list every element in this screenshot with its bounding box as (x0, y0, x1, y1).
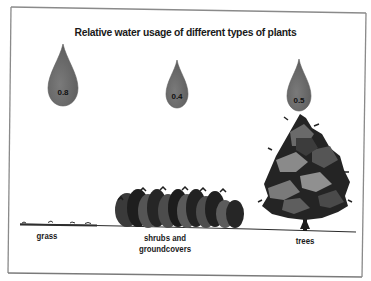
plant-label-trees: trees (291, 236, 319, 247)
figure-title: Relative water usage of different types … (19, 26, 353, 38)
water-usage-value-trees: 0.5 (287, 96, 311, 105)
tree-illustration (258, 114, 352, 231)
water-usage-value-shrubs: 0.4 (165, 92, 189, 101)
plant-label-shrubs-line2: groundcovers (133, 244, 197, 255)
water-usage-value-grass: 0.8 (51, 88, 75, 97)
plant-label-shrubs: shrubs and groundcovers (133, 233, 197, 255)
plant-label-shrubs-line1: shrubs and (133, 233, 197, 244)
plant-label-grass: grass (33, 231, 61, 242)
diagram-canvas: Relative water usage of different types … (0, 0, 371, 281)
grass-illustration (20, 221, 97, 227)
shrubs-illustration (115, 187, 244, 228)
